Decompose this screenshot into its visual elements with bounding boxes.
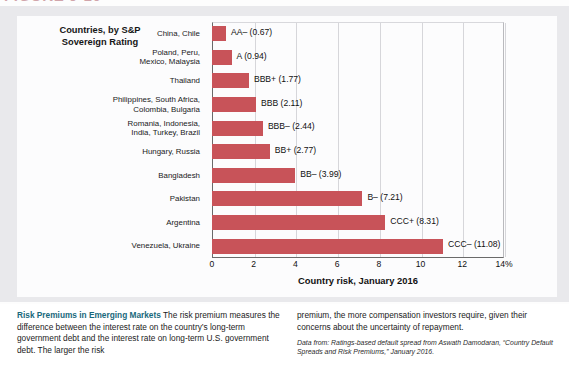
bar-row-label-line: China, Chile [157, 29, 200, 38]
bar-row[interactable]: PakistanB– (7.21) [17, 187, 557, 211]
x-axis-tick-label: 0 [210, 259, 215, 269]
bar-track: BBB+ (1.77) [212, 69, 557, 93]
bar-row[interactable]: ThailandBBB+ (1.77) [17, 69, 557, 93]
bar-row-label-line: Poland, Peru, [152, 48, 200, 57]
bar-chart: Countries, by S&P Sovereign Rating China… [17, 16, 557, 297]
bar-row-label: Thailand [17, 69, 206, 93]
bar-track: BB+ (2.77) [212, 140, 557, 164]
bar-row-label-line: Thailand [170, 76, 200, 85]
bar-value-label: CCC– (11.08) [443, 239, 500, 249]
bar-row-label-line: Mexico, Malaysia [139, 57, 200, 66]
bar[interactable] [212, 97, 256, 112]
bar-row-label: Romania, Indonesia,India, Turkey, Brazil [17, 116, 206, 140]
bar-track: AA– (0.67) [212, 22, 557, 46]
bar-row-label-line: Venezuela, Ukraine [132, 241, 200, 250]
bar-value-label: A (0.94) [232, 51, 267, 61]
bar-row-label: Argentina [17, 211, 206, 235]
bar-row[interactable]: Romania, Indonesia,India, Turkey, Brazil… [17, 116, 557, 140]
bar-row-label-line: Bangladesh [158, 171, 200, 180]
figure-caption: Risk Premiums in Emerging Markets The ri… [0, 304, 569, 371]
bar[interactable] [212, 215, 385, 230]
bar-row-label: Poland, Peru,Mexico, Malaysia [17, 46, 206, 70]
bar-row-label: Pakistan [17, 187, 206, 211]
bar-row-label-line: India, Turkey, Brazil [131, 128, 200, 137]
bar-value-label: BB– (3.99) [295, 169, 341, 179]
figure-number-label: FIGURE 9-10 [4, 0, 101, 4]
bar-track: CCC+ (8.31) [212, 211, 557, 235]
bar-row-label-line: Hungary, Russia [142, 147, 200, 156]
bar-track: A (0.94) [212, 46, 557, 70]
bar-row[interactable]: Philippines, South Africa,Colombia, Bulg… [17, 93, 557, 117]
x-axis-ticks: 02468101214% [212, 259, 504, 273]
bar-row-label: Philippines, South Africa,Colombia, Bulg… [17, 93, 206, 117]
bar-track: CCC– (11.08) [212, 234, 557, 258]
bar-row-label-line: Pakistan [170, 194, 200, 203]
bar-row-label: Hungary, Russia [17, 140, 206, 164]
figure-page: FIGURE 9-10 Countries, by S&P Sovereign … [0, 0, 569, 371]
x-axis-tick-label: 8 [376, 259, 381, 269]
bar-track: BBB– (2.44) [212, 116, 557, 140]
bar[interactable] [212, 26, 226, 41]
bar-value-label: BB+ (2.77) [270, 145, 316, 155]
bar-row-label-line: Philippines, South Africa, [113, 95, 200, 104]
bar[interactable] [212, 121, 263, 136]
bar[interactable] [212, 50, 232, 65]
caption-right-column: premium, the more compensation investors… [297, 310, 559, 356]
x-axis-title: Country risk, January 2016 [212, 275, 504, 286]
x-axis-tick-label: 14% [495, 259, 512, 269]
x-axis-tick-label: 2 [251, 259, 256, 269]
bar-value-label: BBB– (2.44) [263, 121, 315, 131]
bar-row[interactable]: China, ChileAA– (0.67) [17, 22, 557, 46]
caption-right-text: premium, the more compensation investors… [297, 310, 559, 333]
bar-rows: China, ChileAA– (0.67)Poland, Peru,Mexic… [17, 22, 557, 258]
caption-source-note: Data from: Ratings-based default spread … [297, 338, 559, 356]
bar-row-label: Bangladesh [17, 164, 206, 188]
x-axis-tick-label: 10 [416, 259, 426, 269]
bar-value-label: AA– (0.67) [226, 27, 272, 37]
bar-track: B– (7.21) [212, 187, 557, 211]
caption-left-column: Risk Premiums in Emerging Markets The ri… [17, 310, 285, 356]
x-axis-tick-label: 6 [335, 259, 340, 269]
bar-row[interactable]: ArgentinaCCC+ (8.31) [17, 211, 557, 235]
bar-value-label: CCC+ (8.31) [385, 216, 438, 226]
bar[interactable] [212, 239, 443, 254]
bar-track: BBB (2.11) [212, 93, 557, 117]
caption-title: Risk Premiums in Emerging Markets [17, 310, 161, 320]
bar[interactable] [212, 73, 249, 88]
bar-row[interactable]: Hungary, RussiaBB+ (2.77) [17, 140, 557, 164]
bar-row-label-line: Colombia, Bulgaria [133, 105, 200, 114]
bar-row-label: China, Chile [17, 22, 206, 46]
bar-value-label: BBB+ (1.77) [249, 74, 301, 84]
bar-track: BB– (3.99) [212, 164, 557, 188]
bar-row[interactable]: Venezuela, UkraineCCC– (11.08) [17, 234, 557, 258]
x-axis-tick-label: 12 [458, 259, 468, 269]
bar[interactable] [212, 168, 295, 183]
x-axis-tick-label: 4 [293, 259, 298, 269]
bar[interactable] [212, 191, 362, 206]
bar-row-label-line: Argentina [166, 218, 200, 227]
bar-value-label: BBB (2.11) [256, 98, 302, 108]
bar-row-label-line: Romania, Indonesia, [128, 119, 200, 128]
bar-row[interactable]: BangladeshBB– (3.99) [17, 164, 557, 188]
bar-row[interactable]: Poland, Peru,Mexico, MalaysiaA (0.94) [17, 46, 557, 70]
bar[interactable] [212, 144, 270, 159]
bar-row-label: Venezuela, Ukraine [17, 234, 206, 258]
bar-value-label: B– (7.21) [362, 192, 402, 202]
